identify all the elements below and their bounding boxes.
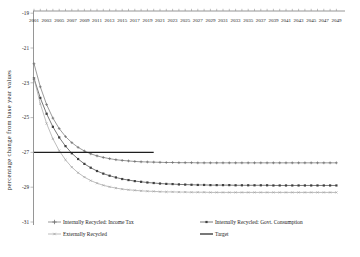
legend-marker-square-icon [200, 221, 213, 223]
x-tick-label: 2001 [29, 18, 40, 23]
x-tick-label: 2031 [218, 18, 229, 23]
x-tick-label: 2021 [155, 18, 166, 23]
series-1-marker [178, 183, 180, 185]
series-1-marker [266, 184, 268, 186]
x-tick-label: 2023 [168, 18, 179, 23]
legend-label-income-tax: Internally Recycled: Income Tax [63, 219, 134, 225]
emissions-chart: 2001200320052007200920112013201520172019… [0, 0, 360, 257]
y-tick-label: -25 [22, 114, 29, 120]
series-1-marker [279, 184, 281, 186]
legend-label-externally-recycled: Externally Recycled [63, 231, 107, 237]
x-tick-label: 2025 [180, 18, 191, 23]
series-1-marker [46, 113, 48, 115]
series-1-marker [222, 184, 224, 186]
series-1-marker [329, 184, 331, 186]
legend-entry-target: Target [200, 231, 229, 237]
series-1-marker [109, 175, 111, 177]
legend-label-target: Target [215, 231, 229, 237]
series-1-marker [127, 179, 129, 181]
x-tick-label: 2015 [117, 18, 128, 23]
series-1-marker [52, 126, 54, 128]
series-line-2 [34, 78, 336, 192]
series-1-marker [134, 180, 136, 182]
y-tick-label: -31 [22, 219, 29, 225]
series-1-marker [260, 184, 262, 186]
legend-entry-income-tax: Internally Recycled: Income Tax [48, 219, 134, 225]
series-line-0 [34, 64, 336, 163]
series-1-marker [83, 163, 85, 165]
series-1-marker [58, 136, 60, 138]
series-1-marker [272, 184, 274, 186]
x-tick-label: 2027 [193, 18, 204, 23]
series-1-marker [153, 182, 155, 184]
y-tick-label: -19 [22, 10, 29, 16]
series-1-marker [172, 183, 174, 185]
y-tick-label: -27 [22, 149, 29, 155]
legend-entry-externally-recycled: Externally Recycled [48, 231, 107, 237]
series-1-marker [235, 184, 237, 186]
series-1-marker [285, 184, 287, 186]
x-tick-label: 2007 [67, 18, 78, 23]
series-1-marker [121, 178, 123, 180]
y-tick-label: -23 [22, 80, 29, 86]
series-1-marker [165, 183, 167, 185]
series-1-marker [310, 184, 312, 186]
series-1-marker [64, 145, 66, 147]
series-1-marker [323, 184, 325, 186]
x-tick-label: 2011 [92, 18, 102, 23]
series-line-1 [34, 78, 336, 185]
series-1-marker [335, 184, 337, 186]
x-tick-label: 2043 [294, 18, 305, 23]
x-tick-label: 2017 [130, 18, 141, 23]
series-1-marker [115, 176, 117, 178]
x-tick-label: 2047 [319, 18, 330, 23]
x-tick-label: 2045 [306, 18, 317, 23]
series-1-marker [102, 173, 104, 175]
x-tick-label: 2003 [42, 18, 53, 23]
series-1-marker [197, 184, 199, 186]
series-1-marker [190, 184, 192, 186]
series-1-marker [298, 184, 300, 186]
series-1-marker [228, 184, 230, 186]
series-1-marker [140, 181, 142, 183]
x-tick-label: 2005 [54, 18, 65, 23]
series-1-marker [291, 184, 293, 186]
series-1-marker [77, 158, 79, 160]
x-tick-label: 2037 [256, 18, 267, 23]
series-1-marker [146, 181, 148, 183]
series-1-marker [216, 184, 218, 186]
legend-label-govt-consumption: Internally Recycled: Govt. Consumption [215, 219, 303, 225]
y-tick-label: -21 [22, 45, 29, 51]
series-1-marker [253, 184, 255, 186]
series-1-marker [209, 184, 211, 186]
series-1-marker [159, 182, 161, 184]
legend: Internally Recycled: Income Tax Internal… [48, 219, 303, 237]
plot-area: 2001200320052007200920112013201520172019… [22, 9, 345, 225]
x-tick-label: 2019 [142, 18, 153, 23]
x-tick-label: 2009 [79, 18, 90, 23]
series-1-marker [39, 97, 41, 99]
legend-marker-x-icon [48, 233, 61, 235]
legend-marker-plus-icon [48, 220, 61, 224]
series-1-marker [316, 184, 318, 186]
y-axis-title: percentage change from base year values [5, 70, 12, 190]
series-1-marker [247, 184, 249, 186]
x-tick-label: 2049 [331, 18, 342, 23]
x-tick-label: 2033 [231, 18, 242, 23]
x-tick-label: 2035 [243, 18, 254, 23]
series-1-marker [241, 184, 243, 186]
series-1-marker [304, 184, 306, 186]
series-1-marker [96, 170, 98, 172]
x-tick-label: 2013 [105, 18, 116, 23]
x-tick-label: 2039 [268, 18, 279, 23]
series-1-marker [90, 167, 92, 169]
y-tick-label: -29 [22, 184, 29, 190]
x-tick-label: 2029 [205, 18, 216, 23]
series-1-marker [203, 184, 205, 186]
series-1-marker [184, 183, 186, 185]
legend-entry-govt-consumption: Internally Recycled: Govt. Consumption [200, 219, 303, 225]
emissions-chart-figure: 2001200320052007200920112013201520172019… [0, 0, 360, 257]
x-tick-label: 2041 [281, 18, 292, 23]
